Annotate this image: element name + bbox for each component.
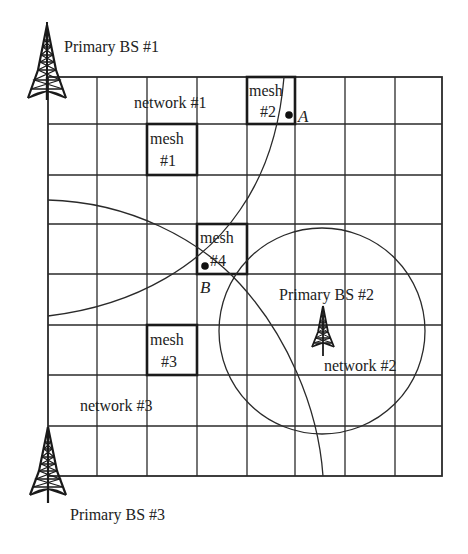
network-2-coverage-circle	[219, 228, 425, 434]
point-a-marker	[285, 111, 293, 119]
radio-tower-icon	[30, 427, 66, 503]
mesh-4-label-line2: #4	[210, 252, 226, 269]
network-3-label: network #3	[80, 397, 152, 414]
mesh-3-label-line2: #3	[161, 353, 177, 370]
radio-tower-icon	[312, 306, 334, 356]
point-b-marker	[201, 262, 209, 270]
primary-bs-3-label: Primary BS #3	[70, 506, 165, 524]
point-a-label: A	[297, 107, 309, 126]
network-3-coverage-arc	[48, 200, 323, 476]
mesh-1-label-line1: mesh	[150, 130, 184, 147]
network-2-label: network #2	[324, 357, 396, 374]
primary-bs-2-label: Primary BS #2	[279, 286, 374, 304]
mesh-4-label-line1: mesh	[200, 229, 234, 246]
radio-tower-icon	[28, 22, 66, 100]
grid-border	[48, 77, 442, 476]
mesh-2-label-line1: mesh	[249, 82, 283, 99]
network-1-label: network #1	[134, 94, 206, 111]
grid	[48, 77, 442, 476]
mesh-3-label-line1: mesh	[150, 331, 184, 348]
network-diagram: Primary BS #1 Primary BS #2 Primary BS #…	[0, 0, 468, 554]
mesh-1-label-line2: #1	[160, 152, 176, 169]
point-b-label: B	[200, 278, 211, 297]
mesh-2-label-line2: #2	[260, 103, 276, 120]
network-1-coverage-arc	[48, 77, 284, 316]
primary-bs-1-label: Primary BS #1	[64, 38, 159, 56]
